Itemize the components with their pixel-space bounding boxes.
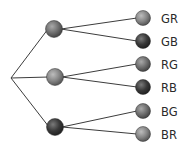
leaf-edge (61, 29, 137, 41)
outcome-label: BR (161, 128, 177, 142)
leaf-edge (62, 127, 137, 134)
outcome-label: RB (161, 81, 177, 95)
outcome-label: GR (161, 12, 178, 26)
branch-edge (11, 77, 49, 78)
tree-nodes (46, 11, 151, 142)
green-ball-icon (136, 104, 151, 119)
leaf-edge (62, 111, 137, 127)
leaf-edge (61, 18, 137, 29)
branch-edge (11, 78, 49, 127)
blue-ball-icon (47, 119, 64, 136)
leaf-edge (62, 77, 137, 87)
red-ball-icon (136, 11, 151, 26)
red-ball-icon (47, 69, 64, 86)
green-ball-icon (46, 21, 63, 38)
blue-ball-icon (136, 34, 151, 49)
outcome-label: GB (161, 35, 178, 49)
outcome-label: BG (161, 105, 178, 119)
tree-diagram: GRGBRGRBBGBR (0, 0, 184, 151)
green-ball-icon (136, 57, 151, 72)
branch-edge (11, 29, 48, 78)
outcome-labels: GRGBRGRBBGBR (161, 12, 178, 142)
red-ball-icon (136, 127, 151, 142)
tree-edges (11, 18, 137, 134)
blue-ball-icon (136, 80, 151, 95)
outcome-label: RG (161, 58, 178, 72)
leaf-edge (62, 64, 137, 77)
